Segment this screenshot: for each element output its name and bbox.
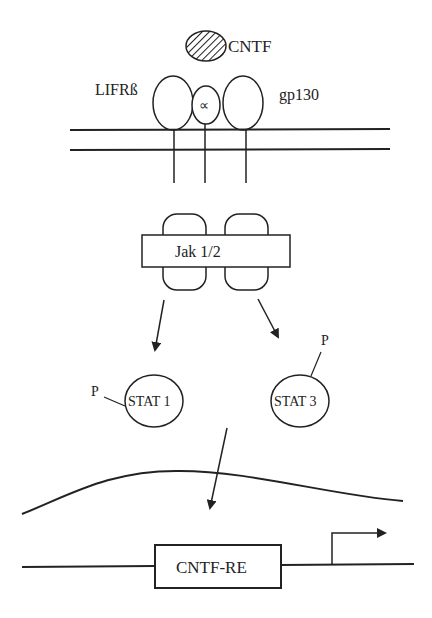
cntf-re-label: CNTF-RE bbox=[176, 558, 247, 577]
stat3-phospho-label: P bbox=[321, 333, 329, 348]
gp130-label: gp130 bbox=[279, 86, 319, 104]
arrow-to-nucleus bbox=[210, 428, 227, 508]
arrow-to-stat1 bbox=[155, 300, 164, 350]
cntf-label: CNTF bbox=[228, 37, 271, 56]
jak-label: Jak 1/2 bbox=[175, 243, 221, 260]
transcription-start-arrow bbox=[332, 533, 385, 565]
lifr-receptor bbox=[153, 76, 193, 130]
cntf-pathway-diagram: CNTF LIFRß ∝ gp130 Jak 1/2 STAT 1 P STAT… bbox=[0, 0, 432, 618]
cntf-ligand bbox=[186, 31, 226, 61]
stat1-phospho-label: P bbox=[91, 384, 99, 399]
alpha-label: ∝ bbox=[199, 98, 209, 113]
lifr-label: LIFRß bbox=[95, 81, 138, 98]
stat3-phospho-link bbox=[311, 352, 321, 376]
dna-right bbox=[281, 564, 414, 565]
stat1-phospho-link bbox=[104, 397, 125, 406]
stat3-label: STAT 3 bbox=[274, 394, 317, 409]
dna-left bbox=[22, 566, 155, 567]
membrane-outer bbox=[70, 129, 390, 130]
membrane-inner bbox=[70, 149, 390, 150]
nuclear-membrane bbox=[22, 471, 403, 514]
gp130-receptor bbox=[223, 76, 263, 130]
stat1-label: STAT 1 bbox=[128, 394, 171, 409]
arrow-to-stat3 bbox=[258, 299, 278, 337]
